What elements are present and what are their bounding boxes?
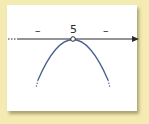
arrow-right-icon [132, 36, 139, 42]
parabola-curve [38, 40, 108, 81]
curve-right-dotted-end [108, 80, 110, 88]
curve-left-dotted-end [36, 80, 38, 88]
right-sign-label: – [103, 25, 109, 36]
sign-chart-graphic [0, 0, 149, 124]
critical-point-label: 5 [70, 24, 77, 35]
left-sign-label: – [35, 25, 41, 36]
open-circle-point-icon [71, 37, 76, 42]
